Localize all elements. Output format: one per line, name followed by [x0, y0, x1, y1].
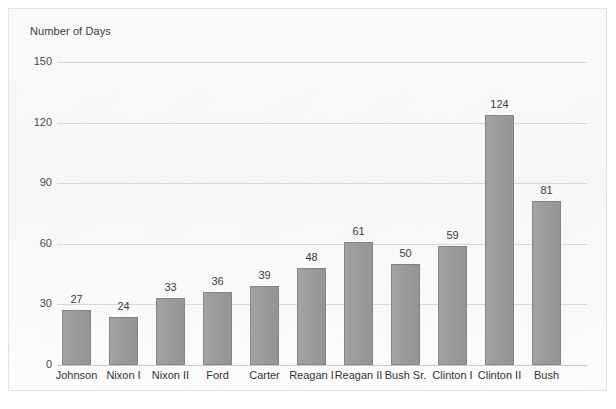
bar[interactable] — [438, 246, 467, 365]
bar[interactable] — [62, 310, 91, 365]
bar-group[interactable]: 39Carter — [241, 0, 288, 409]
bar[interactable] — [203, 292, 232, 365]
bar-value-label: 61 — [335, 225, 382, 237]
bar-value-label: 59 — [429, 229, 476, 241]
bar-group[interactable]: 24Nixon I — [100, 0, 147, 409]
bar-group[interactable]: 124Clinton II — [476, 0, 523, 409]
bar-chart: Number of Days 0306090120150 27Johnson24… — [0, 0, 616, 409]
bar-value-label: 39 — [241, 269, 288, 281]
bar[interactable] — [109, 317, 138, 365]
bar-value-label: 48 — [288, 251, 335, 263]
bar-value-label: 124 — [476, 98, 523, 110]
bar-group[interactable]: 33Nixon II — [147, 0, 194, 409]
bar[interactable] — [532, 201, 561, 365]
bar-value-label: 33 — [147, 281, 194, 293]
bar-group[interactable]: 48Reagan I — [288, 0, 335, 409]
bar[interactable] — [485, 115, 514, 365]
bar[interactable] — [250, 286, 279, 365]
bar-group[interactable]: 61Reagan II — [335, 0, 382, 409]
category-label: Bush — [517, 369, 576, 381]
bar-group[interactable]: 27Johnson — [53, 0, 100, 409]
bar-value-label: 27 — [53, 293, 100, 305]
bar-value-label: 24 — [100, 300, 147, 312]
bar[interactable] — [344, 242, 373, 365]
bar-group[interactable]: 50Bush Sr. — [382, 0, 429, 409]
bar-value-label: 50 — [382, 247, 429, 259]
bar-value-label: 36 — [194, 275, 241, 287]
bars-layer: 27Johnson24Nixon I33Nixon II36Ford39Cart… — [0, 0, 616, 409]
bar[interactable] — [391, 264, 420, 365]
bar-group[interactable]: 59Clinton I — [429, 0, 476, 409]
bar[interactable] — [297, 268, 326, 365]
bar-group[interactable]: 36Ford — [194, 0, 241, 409]
bar-group[interactable]: 81Bush — [523, 0, 570, 409]
bar[interactable] — [156, 298, 185, 365]
bar-value-label: 81 — [523, 184, 570, 196]
